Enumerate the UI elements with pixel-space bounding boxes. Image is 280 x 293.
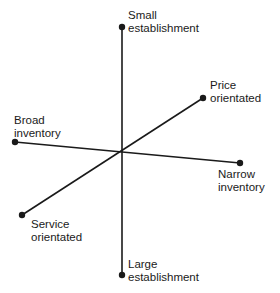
label-line: Broad xyxy=(14,114,61,127)
label-line: inventory xyxy=(14,127,61,140)
label-line: Price xyxy=(210,79,261,92)
label-line: orientated xyxy=(210,92,261,105)
label-line: inventory xyxy=(218,181,265,194)
label-price-orientated: Price orientated xyxy=(210,79,261,105)
label-narrow-inventory: Narrow inventory xyxy=(218,168,265,194)
label-line: Service xyxy=(31,218,82,231)
label-line: Narrow xyxy=(218,168,265,181)
label-large-establishment: Large establishment xyxy=(128,258,199,284)
endpoint-dot-price-orientated xyxy=(200,95,206,101)
endpoint-dot-small-establishment xyxy=(119,24,125,30)
label-line: Small xyxy=(128,9,199,22)
label-line: establishment xyxy=(128,22,199,35)
positioning-diagram xyxy=(0,0,280,293)
axis-inventory-breadth xyxy=(15,142,240,163)
label-line: establishment xyxy=(128,271,199,284)
label-broad-inventory: Broad inventory xyxy=(14,114,61,140)
label-line: orientated xyxy=(31,231,82,244)
label-service-orientated: Service orientated xyxy=(31,218,82,244)
label-line: Large xyxy=(128,258,199,271)
label-small-establishment: Small establishment xyxy=(128,9,199,35)
endpoint-dot-large-establishment xyxy=(119,272,125,278)
endpoint-dot-narrow-inventory xyxy=(237,160,243,166)
endpoint-dot-service-orientated xyxy=(19,212,25,218)
